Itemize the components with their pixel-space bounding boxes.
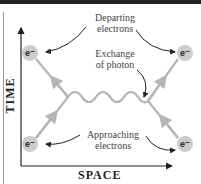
departing-line2: electrons xyxy=(86,23,144,34)
departing-label: Departing electrons xyxy=(86,12,144,34)
electron-top-right: e⁻ xyxy=(177,45,193,61)
exchange-label: Exchange of photon xyxy=(86,48,144,70)
x-axis-label: SPACE xyxy=(78,168,121,183)
y-axis-label: TIME xyxy=(3,77,18,113)
departing-line1: Departing xyxy=(86,12,144,23)
photon-wave xyxy=(68,92,148,102)
exchange-line1: Exchange xyxy=(86,48,144,59)
exchange-line2: of photon xyxy=(86,59,144,70)
electron-top-left: e⁻ xyxy=(22,45,38,61)
electron-bottom-right: e⁻ xyxy=(177,136,193,152)
approaching-label: Approaching electrons xyxy=(78,129,148,151)
approaching-line2: electrons xyxy=(78,140,148,151)
electron-bottom-left: e⁻ xyxy=(22,136,38,152)
approaching-line1: Approaching xyxy=(78,129,148,140)
electron-lines xyxy=(36,59,178,138)
